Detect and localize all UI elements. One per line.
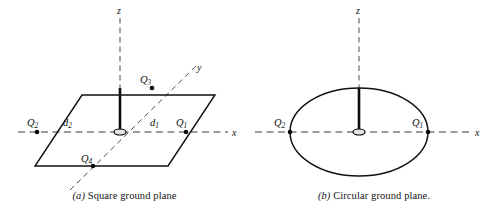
panel-b-z-axis-label: z xyxy=(355,5,360,16)
caption-a-text: Square ground plane xyxy=(85,190,177,201)
panel-a-y-axis-label: y xyxy=(196,62,202,73)
caption-a-index: (a) xyxy=(72,190,85,201)
figure-container: z y x Q1 Q2 Q3 Q4 d1 xyxy=(0,0,499,209)
caption-panel-b: (b) Circular ground plane. xyxy=(249,190,499,201)
caption-b-text: Circular ground plane. xyxy=(330,190,430,201)
panel-a-feed-point xyxy=(114,129,126,135)
figure-diagram: z y x Q1 Q2 Q3 Q4 d1 xyxy=(0,0,499,209)
panel-b-x-axis-label: x xyxy=(474,127,480,138)
panel-b-label-q1: Q1 xyxy=(412,117,423,130)
panel-b-charge-dot-q2 xyxy=(288,130,293,135)
panel-b-group: z x Q1 Q2 xyxy=(255,5,480,176)
panel-a-label-d1: d1 xyxy=(150,117,159,130)
panel-a-label-q1: Q1 xyxy=(176,117,187,130)
panel-b-label-q2: Q2 xyxy=(274,117,286,130)
panel-a-label-d2: d2 xyxy=(63,117,72,130)
panel-b-charge-dot-q1 xyxy=(426,130,431,135)
panel-a-label-q3: Q3 xyxy=(140,74,152,87)
panel-b-feed-point xyxy=(353,129,365,135)
panel-a-y-axis xyxy=(70,66,196,190)
panel-a-label-q2: Q2 xyxy=(27,117,39,130)
panel-a-x-axis-label: x xyxy=(231,127,237,138)
panel-a-group: z y x Q1 Q2 Q3 Q4 d1 xyxy=(18,5,237,190)
caption-panel-a: (a) Square ground plane xyxy=(0,190,249,201)
panel-a-z-axis-label: z xyxy=(116,5,121,16)
caption-b-index: (b) xyxy=(318,190,331,201)
panel-a-label-q4: Q4 xyxy=(81,153,93,166)
